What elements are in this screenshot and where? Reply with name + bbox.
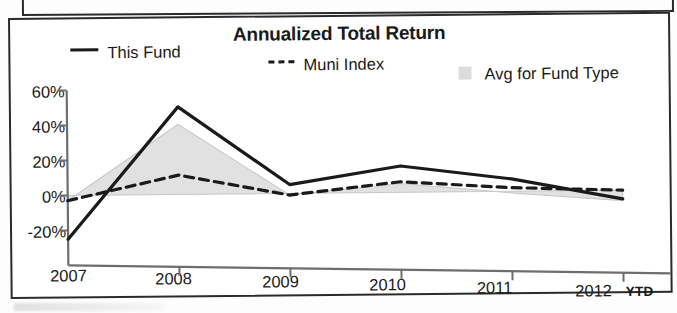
- scan-artifact: [14, 303, 164, 311]
- chart-frame: Annualized Total Return This Fund Muni I…: [8, 12, 673, 299]
- chart-plot-area: Annualized Total Return This Fund Muni I…: [10, 14, 671, 297]
- chart-screenshot: Annualized Total Return This Fund Muni I…: [0, 0, 677, 313]
- series-area-avg-for-fund-type: [67, 120, 623, 206]
- chart-canvas: [10, 14, 671, 297]
- x-axis-line: [68, 260, 670, 280]
